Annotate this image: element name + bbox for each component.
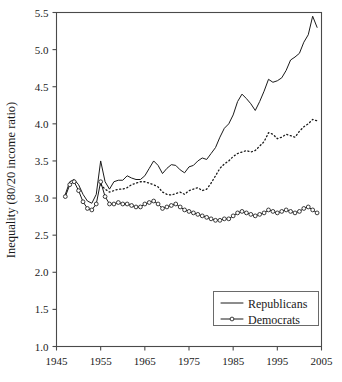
series-marker-democrats — [258, 212, 262, 216]
series-marker-democrats — [293, 211, 297, 215]
chart-legend[interactable]: RepublicansDemocrats — [214, 292, 319, 327]
series-marker-democrats — [298, 210, 302, 214]
series-marker-democrats — [161, 207, 165, 211]
x-tick-label: 1995 — [266, 355, 289, 367]
series-marker-democrats — [94, 202, 98, 206]
series-marker-democrats — [108, 202, 112, 206]
inequality-line-chart: Inequality (80/20 income ratio) 1.01.52.… — [0, 0, 342, 382]
series-marker-democrats — [103, 195, 107, 199]
series-marker-democrats — [165, 205, 169, 209]
y-tick-label: 1.0 — [35, 341, 49, 353]
y-tick-label: 3.0 — [35, 192, 49, 204]
y-tick-label: 5.5 — [35, 7, 49, 19]
y-tick-label: 3.5 — [35, 155, 49, 167]
series-marker-democrats — [99, 180, 103, 184]
y-tick-label: 1.5 — [35, 303, 49, 315]
series-marker-democrats — [289, 210, 293, 214]
y-tick-label: 2.5 — [35, 229, 49, 241]
series-marker-democrats — [253, 214, 257, 218]
series-marker-democrats — [280, 210, 284, 214]
y-tick-label: 4.5 — [35, 81, 49, 93]
series-marker-democrats — [90, 208, 94, 212]
series-marker-democrats — [245, 211, 249, 215]
x-tick-label: 1985 — [222, 355, 245, 367]
series-marker-democrats — [121, 202, 125, 206]
y-tick-label: 2.0 — [35, 266, 49, 278]
series-marker-democrats — [178, 205, 182, 209]
series-marker-democrats — [183, 208, 187, 212]
y-axis-title-group: Inequality (80/20 income ratio) — [4, 102, 18, 259]
x-tick-label: 1965 — [134, 355, 157, 367]
series-marker-democrats — [227, 217, 231, 221]
series-marker-democrats — [143, 202, 147, 206]
series-marker-democrats — [112, 202, 116, 206]
series-marker-democrats — [302, 207, 306, 211]
series-marker-democrats — [86, 207, 90, 211]
legend-label-republicans[interactable]: Republicans — [248, 297, 308, 311]
series-marker-democrats — [139, 205, 143, 209]
series-marker-democrats — [267, 208, 271, 212]
series-marker-democrats — [200, 214, 204, 218]
series-marker-democrats — [192, 211, 196, 215]
series-marker-democrats — [63, 195, 67, 199]
x-tick-label: 1945 — [46, 355, 69, 367]
legend-marker-democrats — [230, 317, 234, 321]
series-marker-democrats — [134, 205, 138, 209]
series-marker-democrats — [275, 211, 279, 215]
series-marker-democrats — [147, 201, 151, 205]
series-marker-democrats — [214, 218, 218, 222]
y-axis-ticks: 1.01.52.02.53.03.54.04.55.05.5 — [35, 7, 57, 353]
y-tick-label: 5.0 — [35, 44, 49, 56]
x-tick-label: 1975 — [178, 355, 201, 367]
series-marker-democrats — [284, 208, 288, 212]
x-axis-ticks: 1945195519651975198519952005 — [46, 347, 334, 367]
x-tick-label: 2005 — [311, 355, 334, 367]
chart-figure: Inequality (80/20 income ratio) 1.01.52.… — [0, 0, 342, 382]
series-marker-democrats — [68, 183, 72, 187]
series-marker-democrats — [130, 204, 134, 208]
series-marker-democrats — [249, 212, 253, 216]
series-marker-democrats — [315, 211, 319, 215]
series-marker-democrats — [271, 210, 275, 214]
series-marker-democrats — [196, 212, 200, 216]
series-marker-democrats — [169, 204, 173, 208]
series-marker-democrats — [240, 210, 244, 214]
series-marker-democrats — [236, 211, 240, 215]
x-tick-label: 1955 — [90, 355, 113, 367]
series-marker-democrats — [209, 217, 213, 221]
series-marker-democrats — [125, 202, 129, 206]
series-marker-democrats — [81, 200, 85, 204]
series-marker-democrats — [156, 202, 160, 206]
series-marker-democrats — [77, 189, 81, 193]
series-marker-democrats — [116, 201, 120, 205]
series-marker-democrats — [262, 211, 266, 215]
series-marker-democrats — [174, 202, 178, 206]
series-marker-democrats — [311, 208, 315, 212]
series-marker-democrats — [231, 214, 235, 218]
y-axis-title: Inequality (80/20 income ratio) — [4, 102, 18, 259]
series-marker-democrats — [205, 215, 209, 219]
y-tick-label: 4.0 — [35, 118, 49, 130]
series-marker-democrats — [306, 205, 310, 209]
series-marker-democrats — [218, 218, 222, 222]
series-marker-democrats — [72, 180, 76, 184]
legend-label-democrats[interactable]: Democrats — [248, 313, 300, 327]
series-marker-democrats — [152, 199, 156, 203]
series-marker-democrats — [187, 210, 191, 214]
data-series-group — [63, 16, 319, 222]
series-marker-democrats — [222, 217, 226, 221]
series-path-republicans — [65, 16, 317, 203]
